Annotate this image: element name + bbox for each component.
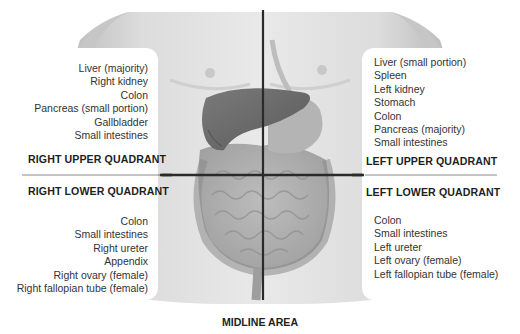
organ-item: Left ovary (female) — [374, 254, 498, 267]
right-lower-quadrant-title: RIGHT LOWER QUADRANT — [28, 185, 169, 197]
organ-item: Appendix — [17, 255, 148, 268]
rectum — [256, 268, 258, 300]
organ-item: Small intestines — [374, 227, 498, 240]
right-lower-organ-list: Colon Small intestines Right ureter Appe… — [17, 215, 148, 295]
left-nipple — [317, 65, 327, 75]
right-nipple — [205, 68, 215, 78]
organ-item: Small intestines — [17, 228, 148, 241]
left-lower-quadrant-title: LEFT LOWER QUADRANT — [366, 186, 500, 198]
midline-area-title: MIDLINE AREA — [0, 316, 520, 328]
left-upper-organ-list: Liver (small portion) Spleen Left kidney… — [374, 56, 466, 150]
left-upper-quadrant-title: LEFT UPPER QUADRANT — [366, 155, 497, 167]
organ-item: Left ureter — [374, 241, 498, 254]
organ-item: Colon — [34, 89, 148, 102]
organ-item: Pancreas (small portion) — [34, 102, 148, 115]
organ-item: Small intestines — [374, 136, 466, 149]
organ-item: Colon — [17, 215, 148, 228]
organ-item: Right ureter — [17, 242, 148, 255]
organ-item: Right kidney — [34, 75, 148, 88]
organ-item: Pancreas (majority) — [374, 123, 466, 136]
organ-item: Right ovary (female) — [17, 269, 148, 282]
organ-item: Colon — [374, 214, 498, 227]
organ-item: Left fallopian tube (female) — [374, 268, 498, 281]
organ-item: Small intestines — [34, 129, 148, 142]
organ-item: Spleen — [374, 69, 466, 82]
organ-item: Colon — [374, 110, 466, 123]
left-lower-organ-list: Colon Small intestines Left ureter Left … — [374, 214, 498, 281]
organ-item: Left kidney — [374, 83, 466, 96]
organ-item: Liver (small portion) — [374, 56, 466, 69]
organ-item: Stomach — [374, 96, 466, 109]
organ-item: Gallbladder — [34, 116, 148, 129]
abdominal-quadrants-diagram: Liver (majority) Right kidney Colon Panc… — [0, 0, 520, 334]
organ-item: Right fallopian tube (female) — [17, 282, 148, 295]
right-upper-organ-list: Liver (majority) Right kidney Colon Panc… — [34, 62, 148, 142]
organ-item: Liver (majority) — [34, 62, 148, 75]
right-upper-quadrant-title: RIGHT UPPER QUADRANT — [28, 153, 166, 165]
